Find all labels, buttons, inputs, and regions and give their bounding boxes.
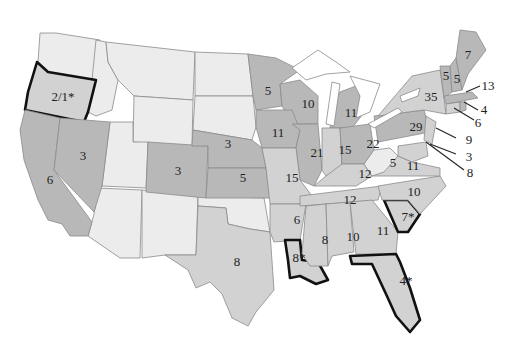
label-IN: 15 [339,142,352,157]
state-RI [460,102,466,112]
label-FL: 4* [400,273,413,288]
label-GA: 11 [377,223,390,238]
leader-NJ [436,128,456,138]
label-PA: 29 [410,119,423,134]
label-TN: 12 [344,192,357,207]
label-OR: 2/1* [51,89,74,104]
label-MA: 13 [482,78,495,93]
label-NJ: 9 [466,132,473,147]
state-CT [446,102,460,114]
label-CA: 6 [47,172,54,187]
lake-superior [292,50,350,80]
state-FL [350,254,420,332]
label-CO: 3 [175,163,182,178]
label-DE: 3 [466,149,473,164]
label-SC: 7* [402,209,415,224]
state-NM [142,190,198,258]
label-AL: 10 [347,229,360,244]
label-ME: 7 [465,47,472,62]
label-MN: 5 [265,83,272,98]
leader-DE [430,144,456,154]
label-AR: 6 [294,212,301,227]
label-LA: 8* [293,250,306,265]
label-RI: 4 [481,102,488,117]
label-OH: 22 [367,136,380,151]
state-KS [206,168,270,198]
label-WV: 5 [390,155,397,170]
label-VT: 5 [443,68,450,83]
state-MT [106,42,195,100]
label-IA: 11 [272,125,285,140]
label-CT: 6 [475,115,482,130]
label-NH: 5 [454,71,461,86]
label-NV: 3 [80,148,87,163]
state-WY [133,96,193,146]
label-TX: 8 [234,254,241,269]
label-MD: 8 [467,165,474,180]
us-map: 2/1* 3 6 3 3 5 5 10 11 21 15 11 15 22 12… [0,0,515,349]
label-KY: 12 [359,166,372,181]
label-NE: 3 [225,136,232,151]
label-NC: 10 [408,184,421,199]
state-ND [195,52,253,96]
label-MI: 11 [345,105,358,120]
label-WI: 10 [302,96,315,111]
leader-MD [426,142,464,170]
label-MO: 15 [286,170,299,185]
state-NJ [424,116,436,144]
leader-MA [466,86,480,92]
label-IL: 21 [311,145,324,160]
label-NY: 35 [425,89,438,104]
label-KS: 5 [240,170,247,185]
label-VA: 11 [407,158,420,173]
state-AR [270,204,306,242]
label-MS: 8 [322,232,329,247]
